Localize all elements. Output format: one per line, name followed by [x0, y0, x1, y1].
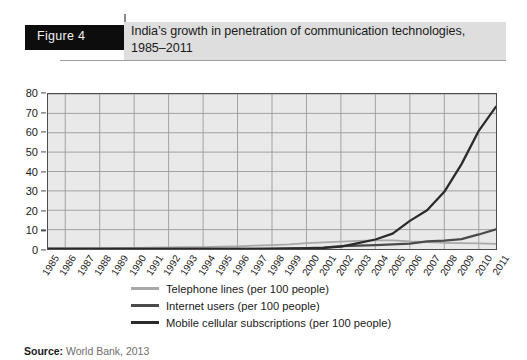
- x-axis-tick-label: 1990: [126, 253, 147, 278]
- header-horizontal-rule: [60, 60, 506, 61]
- x-axis-tick-label: 1998: [265, 253, 286, 278]
- y-axis-tick-mark: [41, 132, 46, 133]
- x-axis-tick-label: 1992: [161, 253, 182, 278]
- y-axis-tick-mark: [41, 151, 46, 152]
- y-axis-tick-mark: [41, 112, 46, 113]
- x-axis-tick-label: 2006: [403, 253, 424, 278]
- y-axis-tick-mark: [41, 171, 46, 172]
- y-axis-tick-mark: [41, 191, 46, 192]
- figure-header: Figure 4 India’s growth in penetration o…: [0, 0, 527, 78]
- figure-number-label: Figure 4: [37, 29, 85, 43]
- x-axis-tick-label: 2003: [351, 253, 372, 278]
- chart-legend: Telephone lines (per 100 people) Interne…: [131, 280, 461, 331]
- legend-item-mobile: Mobile cellular subscriptions (per 100 p…: [131, 314, 461, 331]
- figure-title: India’s growth in penetration of communi…: [131, 23, 503, 56]
- y-axis-tick-label: 60: [26, 126, 38, 138]
- x-axis-tick-label: 2001: [317, 253, 338, 278]
- figure-number-badge: Figure 4: [25, 25, 124, 50]
- x-axis-tick-label: 1995: [213, 253, 234, 278]
- x-axis-tick-label: 1987: [74, 253, 95, 278]
- source-line: Source: World Bank, 2013: [24, 345, 149, 357]
- x-axis-tick-label: 2009: [455, 253, 476, 278]
- x-axis-tick-label: 1989: [109, 253, 130, 278]
- y-axis-tick-label: 0: [32, 244, 38, 256]
- x-axis-tick-label: 1996: [230, 253, 251, 278]
- y-axis-tick-label: 80: [26, 87, 38, 99]
- y-axis: 01020304050607080: [0, 93, 42, 250]
- source-label: Source:: [24, 345, 63, 357]
- legend-swatch-telephone-icon: [131, 287, 159, 289]
- x-axis-tick-label: 1986: [57, 253, 78, 278]
- y-axis-tick-label: 20: [26, 205, 38, 217]
- plot-area: [47, 93, 497, 250]
- x-axis-tick-label: 2011: [490, 253, 511, 277]
- x-axis-tick-label: 2008: [438, 253, 459, 278]
- legend-label-telephone: Telephone lines (per 100 people): [166, 283, 329, 295]
- legend-swatch-mobile-icon: [131, 321, 159, 324]
- legend-label-mobile: Mobile cellular subscriptions (per 100 p…: [166, 317, 391, 329]
- y-axis-tick-mark: [41, 92, 46, 93]
- y-axis-tick-mark: [41, 230, 46, 231]
- x-axis-tick-label: 1985: [40, 253, 61, 278]
- y-axis-tick-label: 70: [26, 107, 38, 119]
- x-axis-tick-label: 2007: [421, 253, 442, 278]
- x-axis-tick-label: 1988: [92, 253, 113, 278]
- x-axis-tick-label: 2010: [473, 253, 494, 278]
- x-axis-tick-label: 2002: [334, 253, 355, 278]
- legend-swatch-internet-icon: [131, 304, 159, 307]
- x-axis-tick-label: 1999: [282, 253, 303, 278]
- legend-item-internet: Internet users (per 100 people): [131, 297, 461, 314]
- legend-item-telephone: Telephone lines (per 100 people): [131, 280, 461, 297]
- x-axis-tick-label: 2005: [386, 253, 407, 278]
- x-axis-tick-label: 1993: [178, 253, 199, 278]
- x-axis-tick-label: 1994: [196, 253, 217, 278]
- y-axis-tick-label: 50: [26, 146, 38, 158]
- source-text: World Bank, 2013: [66, 345, 149, 357]
- y-axis-tick-label: 30: [26, 185, 38, 197]
- y-axis-tick-label: 10: [26, 224, 38, 236]
- x-axis-tick-label: 1991: [144, 253, 165, 278]
- x-axis-tick-label: 2000: [299, 253, 320, 278]
- plot-series-lines: [48, 94, 496, 249]
- x-axis-tick-label: 2004: [369, 253, 390, 278]
- y-axis-tick-mark: [41, 249, 46, 250]
- y-axis-tick-mark: [41, 210, 46, 211]
- chart-figure: 01020304050607080 1985198619871988198919…: [0, 80, 527, 360]
- x-axis-tick-label: 1997: [248, 253, 269, 278]
- y-axis-tick-label: 40: [26, 166, 38, 178]
- legend-label-internet: Internet users (per 100 people): [166, 300, 320, 312]
